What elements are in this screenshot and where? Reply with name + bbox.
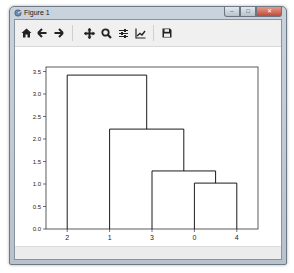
dendrogram-link bbox=[152, 171, 216, 229]
figure-window: Figure 1 – □ ✕ bbox=[9, 6, 287, 265]
toolbar-separator bbox=[153, 25, 154, 41]
y-tick-label: 2.5 bbox=[33, 114, 42, 120]
minimize-button[interactable]: – bbox=[224, 7, 240, 17]
x-tick-label: 3 bbox=[150, 234, 154, 241]
close-button[interactable]: ✕ bbox=[256, 7, 282, 17]
save-button[interactable] bbox=[160, 26, 174, 40]
window-title: Figure 1 bbox=[24, 8, 50, 18]
window-controls: – □ ✕ bbox=[224, 7, 282, 17]
y-tick-label: 0.5 bbox=[33, 204, 42, 210]
y-tick-label: 1.0 bbox=[33, 181, 42, 187]
y-tick-label: 3.5 bbox=[33, 69, 42, 75]
pan-button[interactable] bbox=[82, 26, 96, 40]
x-tick-label: 1 bbox=[108, 234, 112, 241]
zoom-button[interactable] bbox=[99, 26, 113, 40]
dendrogram-chart: 0.00.51.01.52.02.53.03.521304 bbox=[15, 47, 281, 261]
x-tick-label: 0 bbox=[192, 234, 196, 241]
magnifier-icon bbox=[101, 28, 112, 39]
y-tick-label: 3.0 bbox=[33, 91, 42, 97]
forward-button[interactable] bbox=[52, 26, 66, 40]
toolbar-separator bbox=[72, 25, 73, 41]
dendrogram-link bbox=[194, 183, 236, 229]
y-tick-label: 2.0 bbox=[33, 136, 42, 142]
dendrogram-link bbox=[110, 129, 184, 229]
line-chart-icon bbox=[135, 28, 146, 39]
x-tick-label: 4 bbox=[235, 234, 239, 241]
maximize-button[interactable]: □ bbox=[240, 7, 256, 17]
figure-client-area: 0.00.51.01.52.02.53.03.521304 bbox=[14, 19, 282, 260]
floppy-disk-icon bbox=[162, 28, 172, 38]
title-bar[interactable]: Figure 1 – □ ✕ bbox=[10, 7, 286, 19]
status-bar bbox=[15, 246, 281, 259]
dendrogram-link bbox=[67, 75, 147, 229]
move-icon bbox=[84, 28, 95, 39]
home-icon bbox=[21, 28, 32, 38]
subplots-button[interactable] bbox=[116, 26, 130, 40]
navigation-toolbar bbox=[15, 20, 281, 47]
back-button[interactable] bbox=[35, 26, 49, 40]
edit-axis-button[interactable] bbox=[133, 26, 147, 40]
arrow-right-icon bbox=[54, 28, 64, 38]
sliders-icon bbox=[118, 28, 129, 39]
x-tick-label: 2 bbox=[65, 234, 69, 241]
home-button[interactable] bbox=[19, 26, 33, 40]
y-tick-label: 0.0 bbox=[33, 226, 42, 232]
app-icon bbox=[14, 9, 22, 17]
y-tick-label: 1.5 bbox=[33, 159, 42, 165]
figure-canvas[interactable]: 0.00.51.01.52.02.53.03.521304 bbox=[15, 47, 281, 247]
arrow-left-icon bbox=[37, 28, 47, 38]
